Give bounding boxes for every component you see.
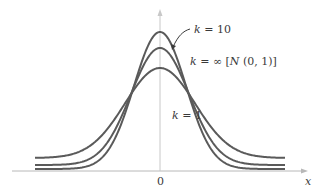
label-k1: k = 1 bbox=[172, 110, 202, 121]
label-k10: k = 10 bbox=[194, 24, 231, 35]
y-axis-arrow-icon bbox=[158, 9, 163, 16]
chart-figure: k = 10 k = ∞ [N (0, 1)] k = 1 0 x bbox=[0, 0, 314, 191]
label-kinf: k = ∞ [N (0, 1)] bbox=[190, 56, 277, 67]
x-axis-label: x bbox=[305, 176, 311, 187]
chart-canvas bbox=[0, 0, 314, 191]
origin-tick-label: 0 bbox=[157, 176, 164, 187]
annotation-arrow bbox=[173, 29, 190, 47]
x-axis-arrow-icon bbox=[301, 169, 308, 174]
